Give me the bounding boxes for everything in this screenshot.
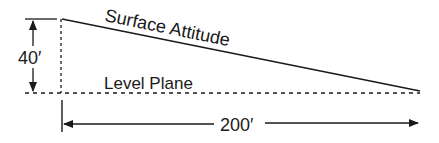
surface-attitude-label: Surface Attitude <box>103 5 232 50</box>
height-label: 40′ <box>18 48 42 68</box>
slope-diagram: Surface Attitude Level Plane 40′ 200′ <box>0 0 439 143</box>
length-label: 200′ <box>220 115 254 135</box>
level-plane-label: Level Plane <box>104 74 193 93</box>
